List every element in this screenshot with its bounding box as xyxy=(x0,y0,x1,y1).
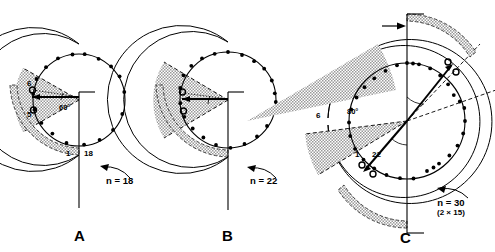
data-point xyxy=(51,132,55,136)
data-point xyxy=(270,79,274,83)
data-point xyxy=(372,76,376,80)
data-point xyxy=(372,166,376,170)
panel-letter-c: C xyxy=(400,230,411,245)
data-point xyxy=(463,119,467,123)
data-point xyxy=(462,106,466,110)
data-point xyxy=(56,56,60,60)
end-tick-label: 18 xyxy=(84,150,93,158)
figure-canvas: 6 5 60° 1 18 xyxy=(0,0,495,252)
sample-size-main-c: n = 30 xyxy=(437,197,464,208)
data-point xyxy=(83,52,87,56)
data-point xyxy=(189,64,193,68)
data-point xyxy=(240,53,244,57)
panel-letter-b: B xyxy=(222,228,233,243)
data-point xyxy=(398,176,402,180)
sample-size-label-c: n = 30 (2 × 15) xyxy=(437,198,465,218)
data-point xyxy=(456,144,460,148)
data-point xyxy=(437,162,441,166)
data-point xyxy=(265,124,269,128)
data-point xyxy=(252,59,256,63)
data-point xyxy=(178,101,182,105)
n-callout-arrowhead xyxy=(247,165,256,172)
vector-tip-marker-4l xyxy=(370,171,376,177)
data-point xyxy=(226,50,230,54)
data-point xyxy=(362,158,366,162)
data-point xyxy=(417,62,421,66)
data-point xyxy=(385,173,389,177)
mean-vector-upper xyxy=(407,66,451,121)
data-point xyxy=(120,112,124,116)
data-point xyxy=(461,132,465,136)
data-point xyxy=(200,57,204,61)
data-point xyxy=(273,91,277,95)
data-point xyxy=(243,142,247,146)
data-point xyxy=(353,147,357,151)
data-point xyxy=(109,65,113,69)
data-point xyxy=(71,53,75,57)
confidence-band-top xyxy=(407,14,476,57)
data-point xyxy=(229,146,233,150)
data-point xyxy=(347,121,351,125)
data-point xyxy=(412,177,416,181)
data-point xyxy=(384,69,388,73)
data-point xyxy=(182,115,186,119)
data-point xyxy=(255,135,259,139)
data-point xyxy=(349,108,353,112)
top-callout-arrowhead xyxy=(397,23,406,30)
data-point xyxy=(452,93,456,97)
data-point xyxy=(214,143,218,147)
data-point xyxy=(82,143,86,147)
data-point xyxy=(213,52,217,56)
confidence-angle-label: 60° xyxy=(59,104,70,112)
data-point xyxy=(262,67,266,71)
data-point xyxy=(446,82,450,86)
sample-size-label-a: n = 18 xyxy=(106,176,133,187)
data-point xyxy=(432,166,436,170)
panel-b-graphic xyxy=(140,0,305,252)
data-point xyxy=(182,73,186,77)
data-point xyxy=(395,63,399,67)
vector-tip-label-lower: 5 xyxy=(27,111,31,119)
data-point xyxy=(425,169,429,173)
data-point xyxy=(65,141,69,145)
panel-b: 7 6 80° 1 22 xyxy=(140,0,305,252)
data-point xyxy=(428,67,432,71)
n-callout-arrowhead xyxy=(100,164,109,171)
data-point xyxy=(35,77,39,81)
data-point xyxy=(448,154,452,158)
data-point xyxy=(191,127,195,131)
sample-size-sub-c: (2 × 15) xyxy=(437,209,465,218)
data-point xyxy=(98,138,102,142)
panel-letter-a: A xyxy=(74,228,85,243)
confidence-band-bottom xyxy=(338,185,407,228)
data-point xyxy=(118,74,122,78)
data-point xyxy=(44,65,48,69)
data-point xyxy=(363,85,367,89)
data-point xyxy=(97,57,101,61)
data-point xyxy=(202,136,206,140)
vector-tip-label-upper: 6 xyxy=(27,80,31,88)
start-tick-label: 1 xyxy=(66,150,70,158)
data-point xyxy=(355,96,359,100)
angle-arc-lower xyxy=(391,138,407,145)
vector-tip-marker-5l xyxy=(359,162,365,168)
panel-c-graphic xyxy=(300,0,495,252)
sample-size-label-b: n = 22 xyxy=(250,176,277,187)
data-point xyxy=(411,62,415,66)
data-point xyxy=(458,100,462,104)
data-point xyxy=(348,134,352,138)
panel-c: 15 1' 4' 5' 40° 40° 5' 4' 1 15' xyxy=(300,0,495,252)
data-point xyxy=(40,121,44,125)
